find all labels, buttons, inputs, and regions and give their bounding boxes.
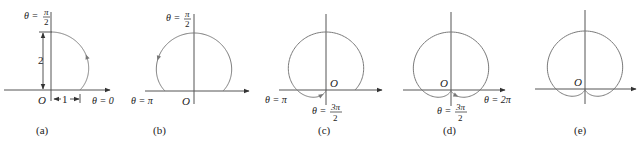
theta-3pi-over-2-label: θ = 3π 2 xyxy=(312,102,342,123)
theta-3pi-over-2-label: θ = 3π 2 xyxy=(437,102,467,123)
svg-text:2: 2 xyxy=(333,113,338,123)
polar-curve xyxy=(51,32,89,90)
svg-text:θ =: θ = xyxy=(312,105,326,116)
origin-label: O xyxy=(182,95,190,107)
height-dimension-label: 2 xyxy=(38,54,44,66)
origin-label: O xyxy=(574,76,582,88)
panel-b: O θ = π θ = π 2 (b) xyxy=(131,9,249,137)
theta-pi-over-2-label: θ = π 2 xyxy=(24,7,50,27)
width-dimension-label: 1 xyxy=(62,93,68,105)
svg-text:3π: 3π xyxy=(455,102,466,112)
caption-e: (e) xyxy=(574,124,587,137)
svg-text:π: π xyxy=(185,9,190,19)
caption-d: (d) xyxy=(443,124,456,137)
svg-text:3π: 3π xyxy=(330,102,341,112)
theta-pi-label: θ = π xyxy=(131,95,154,106)
panel-e: O (e) xyxy=(535,10,636,137)
origin-label: O xyxy=(440,77,448,89)
svg-text:2: 2 xyxy=(458,113,463,123)
caption-a: (a) xyxy=(36,124,49,137)
svg-text:2: 2 xyxy=(185,19,190,29)
svg-text:2: 2 xyxy=(44,17,49,27)
svg-text:π: π xyxy=(44,7,49,17)
theta-0-label: θ = 0 xyxy=(92,95,114,106)
panel-d: O θ = 2π θ = 3π 2 (d) xyxy=(403,12,512,137)
direction-arrow-icon xyxy=(85,54,89,59)
svg-text:θ =: θ = xyxy=(437,105,451,116)
direction-arrow-icon xyxy=(157,55,161,60)
svg-text:θ =: θ = xyxy=(166,12,180,23)
panel-c: O θ = π θ = 3π 2 (c) xyxy=(265,14,382,137)
theta-2pi-label: θ = 2π xyxy=(484,94,512,105)
polar-curve-figure: 2 1 O θ = 0 θ = π 2 (a) O θ = π θ = π 2 … xyxy=(0,0,639,148)
origin-label: O xyxy=(330,77,338,89)
theta-pi-over-2-label: θ = π 2 xyxy=(166,9,191,29)
theta-pi-label: θ = π xyxy=(265,94,288,105)
caption-b: (b) xyxy=(153,124,166,137)
origin-label: O xyxy=(38,94,46,106)
panel-a: 2 1 O θ = 0 θ = π 2 (a) xyxy=(4,7,114,137)
caption-c: (c) xyxy=(318,124,331,137)
svg-text:θ =: θ = xyxy=(24,10,38,21)
